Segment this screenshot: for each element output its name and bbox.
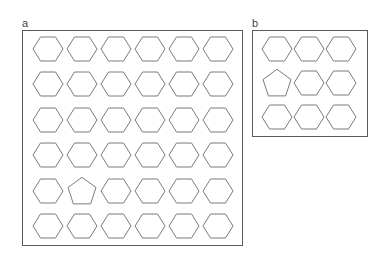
pentagon-icon (68, 177, 96, 204)
hexagon-icon (67, 37, 97, 61)
hexagon-icon (33, 108, 63, 132)
hexagon-icon (203, 179, 233, 203)
hexagon-icon (33, 214, 63, 238)
hexagon-icon (33, 72, 63, 96)
hexagon-icon (33, 37, 63, 61)
hexagon-icon (203, 143, 233, 167)
hexagon-icon (169, 179, 199, 203)
hexagon-icon (262, 37, 292, 61)
pentagon-icon (263, 69, 291, 96)
hexagon-icon (101, 37, 131, 61)
hexagon-icon (67, 143, 97, 167)
hexagon-icon (169, 214, 199, 238)
hexagon-icon (101, 214, 131, 238)
hexagon-icon (67, 108, 97, 132)
hexagon-icon (101, 108, 131, 132)
hexagon-icon (67, 72, 97, 96)
hexagon-icon (294, 105, 324, 129)
hexagon-icon (203, 108, 233, 132)
hexagon-icon (326, 71, 356, 95)
hexagon-icon (101, 179, 131, 203)
hexagon-icon (203, 72, 233, 96)
hexagon-icon (33, 143, 63, 167)
hexagon-icon (169, 143, 199, 167)
hexagon-icon (135, 72, 165, 96)
hexagon-icon (33, 179, 63, 203)
shape-grid (0, 0, 389, 262)
hexagon-icon (169, 72, 199, 96)
hexagon-icon (135, 143, 165, 167)
hexagon-icon (135, 214, 165, 238)
hexagon-icon (326, 37, 356, 61)
hexagon-icon (101, 143, 131, 167)
hexagon-icon (326, 105, 356, 129)
hexagon-icon (135, 179, 165, 203)
hexagon-icon (135, 37, 165, 61)
hexagon-icon (169, 108, 199, 132)
hexagon-icon (294, 37, 324, 61)
hexagon-icon (67, 214, 97, 238)
hexagon-icon (294, 71, 324, 95)
hexagon-icon (169, 37, 199, 61)
hexagon-icon (203, 214, 233, 238)
hexagon-icon (101, 72, 131, 96)
hexagon-icon (203, 37, 233, 61)
hexagon-icon (262, 105, 292, 129)
hexagon-icon (135, 108, 165, 132)
